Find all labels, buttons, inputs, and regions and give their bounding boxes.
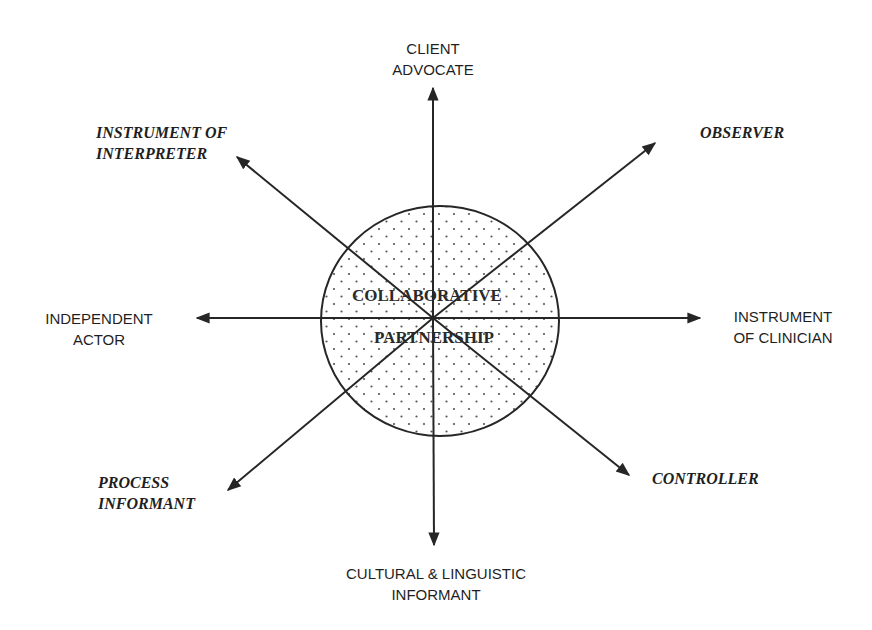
label-line: ACTOR <box>34 329 164 350</box>
label-line: INFORMANT <box>326 584 546 605</box>
label-instrument-of-clinician: INSTRUMENT OF CLINICIAN <box>718 306 848 348</box>
label-instrument-of-interpreter: INSTRUMENT OF INTERPRETER <box>96 122 227 164</box>
label-line: INSTRUMENT OF <box>96 122 227 143</box>
collaborative-partnership-circle <box>321 206 559 436</box>
label-line: INTERPRETER <box>96 143 227 164</box>
label-line: INSTRUMENT <box>718 306 848 327</box>
label-line: OBSERVER <box>700 122 784 143</box>
label-controller: CONTROLLER <box>652 468 759 489</box>
label-line: INDEPENDENT <box>34 308 164 329</box>
label-line: INFORMANT <box>98 493 195 514</box>
label-line: CLIENT <box>383 38 483 59</box>
label-line: OF CLINICIAN <box>718 327 848 348</box>
arrow-south <box>433 320 434 545</box>
label-line: CONTROLLER <box>652 468 759 489</box>
center-label-line1: COLLABORATIVE <box>352 286 502 306</box>
label-cultural-linguistic-informant: CULTURAL & LINGUISTIC INFORMANT <box>326 563 546 605</box>
label-line: CULTURAL & LINGUISTIC <box>326 563 546 584</box>
label-line: ADVOCATE <box>383 59 483 80</box>
label-client-advocate: CLIENT ADVOCATE <box>383 38 483 80</box>
label-independent-actor: INDEPENDENT ACTOR <box>34 308 164 350</box>
label-process-informant: PROCESS INFORMANT <box>98 472 195 514</box>
label-observer: OBSERVER <box>700 122 784 143</box>
label-line: PROCESS <box>98 472 195 493</box>
center-label-line2: PARTNERSHIP <box>374 328 494 348</box>
